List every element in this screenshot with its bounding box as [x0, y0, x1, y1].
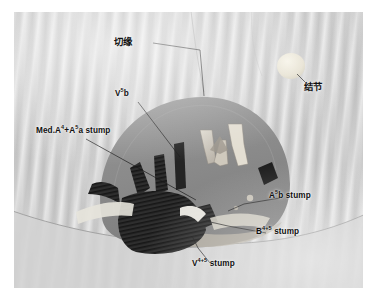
- fissure-line-a: [190, 12, 204, 92]
- label-med-a4-a5a-stump: Med.A4+A5a stump: [36, 127, 110, 136]
- label-nodule: 结节: [304, 82, 322, 92]
- label-v4-5-stump: V4+5 stump: [192, 260, 235, 269]
- label-b45-sup: 4+5: [262, 225, 272, 231]
- anatomical-figure: 切缘 结节 V5b Med.A4+A5a stump A5b stump B4+…: [0, 0, 373, 299]
- vein-bar-v5b: [174, 142, 186, 190]
- stump-dot-a: [247, 195, 253, 201]
- label-v45-tail: stump: [207, 259, 234, 268]
- fissure-line-b: [251, 12, 262, 76]
- label-a5b-stump: A5b stump: [269, 192, 311, 201]
- illustration-vectors: [14, 12, 363, 288]
- label-a5b-tail: b stump: [278, 191, 311, 200]
- label-med-pre: Med.A: [36, 126, 61, 135]
- nodule-marker: [277, 53, 305, 79]
- label-v45-sup: 4+5: [198, 257, 208, 263]
- label-v5b: V5b: [115, 90, 129, 99]
- label-b45-tail: stump: [272, 227, 299, 236]
- label-med-tail: a stump: [78, 126, 110, 135]
- illustration-plate: 切缘 结节 V5b Med.A4+A5a stump A5b stump B4+…: [14, 12, 363, 288]
- label-b4-5-stump: B4+5 stump: [256, 228, 299, 237]
- label-med-mid: +A: [64, 126, 75, 135]
- label-v5b-tail: b: [124, 89, 129, 98]
- label-cut-margin: 切缘: [114, 37, 132, 47]
